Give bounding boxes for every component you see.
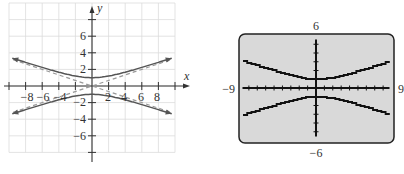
xmax-label: 9 [398,82,404,96]
x-tick-label: −4 [54,90,67,104]
y-tick-label: 2 [80,62,86,76]
y-tick-label: 6 [80,29,86,43]
x-axis-label: x [183,69,190,83]
ymax-label: 6 [313,19,319,33]
x-tick-label: 2 [105,90,111,104]
x-tick-label: −8 [21,90,34,104]
y-tick-label: −6 [73,129,86,143]
y-axis [88,6,96,162]
x-tick-labels: −8−6−42468 [21,90,160,104]
y-axis-arrow-icon [90,6,95,13]
x-axis-arrow-icon [183,84,190,89]
x-axis [4,82,190,90]
x-tick-label: 8 [154,90,160,104]
y-axis-label: y [96,1,103,15]
right-graph-calculator-screen: 6 −6 −9 9 [222,19,404,160]
y-tick-label: −2 [73,95,86,109]
left-graph: x y −8−6−42468 642−2−4−6 [4,1,190,162]
ymin-label: −6 [310,146,323,160]
figure: x y −8−6−42468 642−2−4−6 6 −6 −9 9 [0,0,404,174]
x-tick-label: −6 [37,90,50,104]
xmin-label: −9 [222,82,235,96]
y-tick-label: −4 [73,112,86,126]
x-tick-label: 6 [138,90,144,104]
x-tick-label: 4 [121,90,127,104]
y-tick-label: 4 [80,46,86,60]
